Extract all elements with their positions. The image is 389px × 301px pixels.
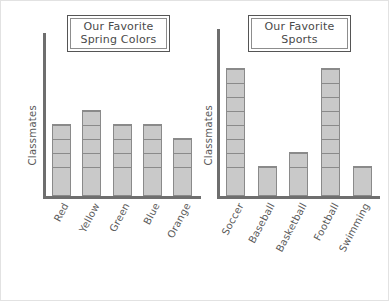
bar-red (52, 124, 71, 196)
bar-segment (144, 139, 161, 153)
bar-segment (227, 97, 244, 111)
bar-segment (322, 125, 339, 139)
x-label-slot-soccer: Soccer (220, 199, 252, 289)
bar-segment (83, 111, 100, 125)
bar-baseball (258, 166, 277, 196)
bar-slot-football (315, 32, 347, 196)
x-label-slot-red: Red (46, 199, 76, 289)
bar-segment (322, 181, 339, 195)
bar-segment (144, 167, 161, 181)
bar-segment (322, 153, 339, 167)
plot-area-colors (46, 32, 198, 196)
bar-slot-green (107, 32, 137, 196)
bar-slot-red (46, 32, 76, 196)
bar-segment (227, 167, 244, 181)
bar-segment (322, 97, 339, 111)
x-label-slot-yellow: Yellow (76, 199, 106, 289)
bar-segment (322, 167, 339, 181)
bar-slot-orange (168, 32, 198, 196)
bar-segment (144, 181, 161, 195)
x-label-slot-basketball: Basketball (283, 199, 315, 289)
bar-segment (114, 181, 131, 195)
bar-basketball (289, 152, 308, 196)
bar-segment (114, 139, 131, 153)
plot-area-sports (220, 32, 378, 196)
bar-segment (322, 69, 339, 83)
bar-segment (322, 139, 339, 153)
x-tick-label-red: Red (52, 201, 71, 223)
bar-blue (143, 124, 162, 196)
bar-slot-blue (137, 32, 167, 196)
x-axis-labels-colors: Red Yellow Green Blue Orange (46, 199, 198, 289)
x-tick-label-orange: Orange (165, 201, 193, 240)
x-tick-label-baseball: Baseball (247, 201, 277, 245)
bar-segment (53, 167, 70, 181)
bar-segment (227, 125, 244, 139)
bar-segment (83, 139, 100, 153)
bar-segment (354, 181, 371, 195)
bar-slot-yellow (76, 32, 106, 196)
bar-yellow (82, 110, 101, 196)
bar-segment (83, 181, 100, 195)
x-tick-label-blue: Blue (142, 201, 162, 226)
bar-segment (114, 167, 131, 181)
bar-slot-swimming (346, 32, 378, 196)
x-tick-label-yellow: Yellow (77, 201, 102, 234)
bar-slot-baseball (252, 32, 284, 196)
bar-segment (227, 153, 244, 167)
bar-segment (83, 153, 100, 167)
x-label-slot-blue: Blue (137, 199, 167, 289)
bar-segment (53, 153, 70, 167)
bar-segment (53, 181, 70, 195)
bar-segment (114, 125, 131, 139)
y-axis-label-colors: Classmates (27, 105, 38, 165)
bar-segment (114, 153, 131, 167)
x-label-slot-orange: Orange (168, 199, 198, 289)
bar-orange (173, 138, 192, 196)
bar-football (321, 68, 340, 196)
bar-segment (227, 139, 244, 153)
bar-segment (174, 139, 191, 153)
bar-segment (290, 153, 307, 167)
x-label-slot-green: Green (107, 199, 137, 289)
bar-segment (174, 181, 191, 195)
bar-segment (290, 181, 307, 195)
bar-segment (290, 167, 307, 181)
chart-favorite-spring-colors: Our Favorite Spring Colors Classmates (1, 1, 207, 301)
bar-swimming (353, 166, 372, 196)
bar-segment (259, 181, 276, 195)
bar-slot-basketball (283, 32, 315, 196)
bar-segment (227, 111, 244, 125)
x-axis-labels-sports: Soccer Baseball Basketball Football Swim… (220, 199, 378, 289)
chart-favorite-sports: Our Favorite Sports Classmates (201, 1, 389, 301)
y-axis-label-sports: Classmates (203, 105, 214, 165)
bar-slot-soccer (220, 32, 252, 196)
bar-green (113, 124, 132, 196)
bar-segment (83, 167, 100, 181)
bar-segment (322, 83, 339, 97)
bar-segment (227, 69, 244, 83)
bar-segment (227, 181, 244, 195)
bar-segment (83, 125, 100, 139)
bar-segment (144, 125, 161, 139)
bar-segment (174, 153, 191, 167)
x-tick-label-football: Football (311, 201, 340, 243)
worksheet-page: Our Favorite Spring Colors Classmates (0, 0, 389, 301)
x-tick-label-soccer: Soccer (219, 201, 245, 237)
bar-segment (174, 167, 191, 181)
bar-segment (354, 167, 371, 181)
x-label-slot-swimming: Swimming (346, 199, 378, 289)
bar-segment (53, 139, 70, 153)
x-tick-label-green: Green (107, 201, 131, 234)
bar-segment (322, 111, 339, 125)
bar-segment (227, 83, 244, 97)
bar-soccer (226, 68, 245, 196)
bar-segment (144, 153, 161, 167)
bar-segment (259, 167, 276, 181)
bar-segment (53, 125, 70, 139)
